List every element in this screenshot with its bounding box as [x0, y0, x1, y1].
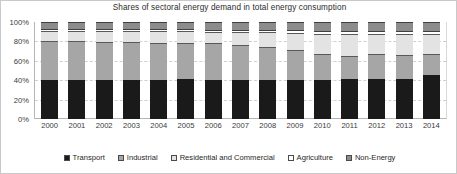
y-axis-tick-label: 0%	[18, 115, 29, 124]
legend-item[interactable]: Non-Energy	[346, 153, 396, 162]
bar-segment[interactable]	[423, 34, 440, 54]
bar-segment[interactable]	[423, 22, 440, 31]
bar-segment[interactable]	[96, 80, 113, 119]
bar-segment[interactable]	[259, 32, 276, 48]
bar-column[interactable]	[287, 22, 304, 119]
bar-segment[interactable]	[314, 22, 331, 31]
legend-item[interactable]: Transport	[64, 153, 105, 162]
bar-column[interactable]	[368, 22, 385, 119]
bar-column[interactable]	[205, 22, 222, 119]
bar-segment[interactable]	[68, 22, 85, 29]
x-axis-tick-label: 2000	[41, 121, 58, 130]
bar-segment[interactable]	[150, 31, 167, 44]
bar-segment[interactable]	[96, 42, 113, 80]
legend-swatch-icon	[118, 155, 124, 161]
bar-column[interactable]	[341, 22, 358, 119]
bar-column[interactable]	[96, 22, 113, 119]
bar-segment[interactable]	[41, 31, 58, 42]
bar-segment[interactable]	[41, 41, 58, 80]
bar-segment[interactable]	[341, 22, 358, 31]
bar-segment[interactable]	[368, 79, 385, 119]
bar-column[interactable]	[41, 22, 58, 119]
bar-segment[interactable]	[205, 80, 222, 119]
bar-segment[interactable]	[96, 22, 113, 29]
bar-segment[interactable]	[232, 32, 249, 46]
bar-segment[interactable]	[423, 54, 440, 75]
bar-segment[interactable]	[68, 31, 85, 42]
bar-segment[interactable]	[205, 22, 222, 30]
stacked-bar-chart: Shares of sectoral energy demand in tota…	[0, 0, 457, 174]
y-axis: 100%80%60%40%20%0%	[1, 22, 32, 119]
bar-segment[interactable]	[396, 55, 413, 79]
bar-segment[interactable]	[341, 79, 358, 119]
bar-segment[interactable]	[341, 56, 358, 79]
plot-wrap	[34, 22, 447, 119]
x-axis-tick-label: 2006	[205, 121, 222, 130]
bar-segment[interactable]	[68, 80, 85, 119]
bar-segment[interactable]	[287, 33, 304, 50]
bar-segment[interactable]	[123, 80, 140, 119]
bar-segment[interactable]	[287, 50, 304, 80]
bar-series-group	[34, 22, 447, 119]
bar-column[interactable]	[68, 22, 85, 119]
bar-column[interactable]	[259, 22, 276, 119]
bar-segment[interactable]	[259, 47, 276, 80]
bar-segment[interactable]	[368, 22, 385, 31]
bar-segment[interactable]	[177, 43, 194, 79]
bar-segment[interactable]	[287, 80, 304, 119]
bar-segment[interactable]	[150, 80, 167, 119]
legend-label: Industrial	[127, 153, 158, 162]
bar-segment[interactable]	[287, 22, 304, 30]
bar-segment[interactable]	[150, 43, 167, 80]
y-axis-tick-label: 20%	[14, 95, 29, 104]
bar-segment[interactable]	[259, 80, 276, 119]
x-axis-tick-label: 2002	[96, 121, 113, 130]
bar-segment[interactable]	[150, 22, 167, 29]
bar-segment[interactable]	[232, 22, 249, 30]
bar-segment[interactable]	[396, 22, 413, 31]
bar-segment[interactable]	[123, 42, 140, 80]
bar-segment[interactable]	[423, 75, 440, 119]
y-axis-tick-label: 80%	[14, 37, 29, 46]
legend-item[interactable]: Agriculture	[288, 153, 333, 162]
bar-segment[interactable]	[341, 34, 358, 56]
bar-segment[interactable]	[96, 31, 113, 43]
bar-segment[interactable]	[368, 34, 385, 54]
bar-segment[interactable]	[232, 45, 249, 80]
legend-swatch-icon	[171, 155, 177, 161]
bar-segment[interactable]	[205, 43, 222, 80]
bar-segment[interactable]	[368, 54, 385, 79]
bar-column[interactable]	[314, 22, 331, 119]
legend-swatch-icon	[346, 155, 352, 161]
bar-column[interactable]	[123, 22, 140, 119]
bar-segment[interactable]	[205, 32, 222, 44]
bar-column[interactable]	[396, 22, 413, 119]
bar-segment[interactable]	[314, 54, 331, 80]
bar-column[interactable]	[423, 22, 440, 119]
x-axis-tick-label: 2012	[368, 121, 385, 130]
legend-item[interactable]: Industrial	[118, 153, 158, 162]
bar-segment[interactable]	[177, 79, 194, 119]
bar-segment[interactable]	[41, 22, 58, 29]
x-axis-tick-label: 2009	[287, 121, 304, 130]
bar-column[interactable]	[177, 22, 194, 119]
bar-segment[interactable]	[314, 80, 331, 119]
bar-segment[interactable]	[123, 22, 140, 29]
bar-segment[interactable]	[41, 80, 58, 119]
bar-column[interactable]	[232, 22, 249, 119]
x-axis-tick-label: 2004	[150, 121, 167, 130]
bar-column[interactable]	[150, 22, 167, 119]
legend-item[interactable]: Residential and Commercial	[171, 153, 275, 162]
bar-segment[interactable]	[123, 31, 140, 43]
bar-segment[interactable]	[396, 79, 413, 119]
bar-segment[interactable]	[177, 22, 194, 29]
bar-segment[interactable]	[177, 31, 194, 44]
x-axis-tick-label: 2011	[341, 121, 358, 130]
bar-segment[interactable]	[232, 80, 249, 119]
x-axis-tick-label: 2014	[423, 121, 440, 130]
bar-segment[interactable]	[314, 34, 331, 54]
bar-segment[interactable]	[396, 34, 413, 55]
bar-segment[interactable]	[68, 41, 85, 80]
bar-segment[interactable]	[259, 22, 276, 30]
x-axis-tick-label: 2007	[232, 121, 249, 130]
